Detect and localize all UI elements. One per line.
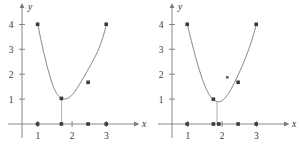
- x-ticklabel-1: 1: [185, 131, 190, 141]
- curve-point-3: [236, 81, 240, 85]
- y-ticklabel-1: 1: [9, 95, 14, 105]
- y-axis-label: y: [27, 2, 33, 12]
- y-ticklabel-1: 1: [159, 95, 164, 105]
- x-ticklabel-2: 2: [70, 131, 75, 141]
- y-axis-arrow: [20, 3, 25, 8]
- curve-point-1: [185, 23, 189, 27]
- curve-point-4: [254, 23, 258, 27]
- left-plot: 4 3 2 1 1 2 3 x y: [0, 0, 150, 151]
- y-axis-label: y: [177, 2, 183, 12]
- x-axis-arrow: [284, 122, 290, 127]
- axis-point-3: [217, 122, 221, 126]
- x-ticklabel-1: 1: [35, 131, 40, 141]
- x-ticklabel-2: 2: [220, 131, 225, 141]
- axis-point-4: [104, 122, 108, 126]
- axis-point-2: [60, 122, 64, 126]
- y-ticklabel-3: 3: [9, 45, 14, 55]
- curve-point-1: [36, 23, 40, 27]
- x-axis-label: x: [141, 119, 147, 129]
- axis-point-4: [236, 122, 240, 126]
- plot-curve: [38, 25, 107, 100]
- x-axis-arrow: [134, 122, 140, 127]
- axis-point-1: [36, 122, 40, 126]
- right-plot: 4 3 2 1 1 2 3 x y: [150, 0, 300, 151]
- plot-curve: [187, 25, 256, 102]
- axis-point-3: [86, 122, 90, 126]
- x-axis-label: x: [291, 119, 297, 129]
- axis-point-2: [212, 122, 216, 126]
- y-axis-arrow: [170, 3, 175, 8]
- y-ticklabel-2: 2: [159, 70, 164, 80]
- y-ticklabel-2: 2: [9, 70, 14, 80]
- curve-point-2: [60, 97, 64, 101]
- axis-point-1: [185, 122, 189, 126]
- x-ticklabel-3: 3: [254, 131, 259, 141]
- figure-container: 4 3 2 1 1 2 3 x y: [0, 0, 301, 151]
- isolated-point: [226, 76, 229, 79]
- y-ticklabel-4: 4: [9, 20, 14, 30]
- curve-point-4: [104, 23, 108, 27]
- y-ticklabel-3: 3: [159, 45, 164, 55]
- curve-point-2: [212, 97, 216, 101]
- x-ticklabel-3: 3: [104, 131, 109, 141]
- curve-point-3: [86, 81, 90, 85]
- y-ticklabel-4: 4: [159, 20, 164, 30]
- axis-point-5: [254, 122, 258, 126]
